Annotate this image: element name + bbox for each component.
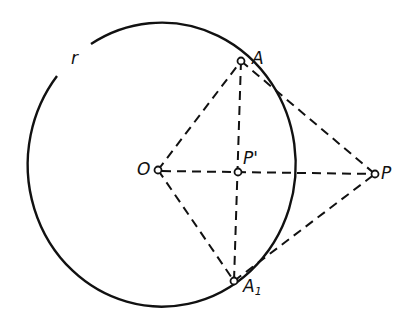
point-P-marker (372, 171, 379, 178)
point-Pprime-marker (235, 169, 242, 176)
label-A1-main: A (243, 276, 255, 296)
label-A: A (252, 50, 264, 67)
geometry-figure (0, 0, 414, 326)
label-O: O (137, 161, 150, 178)
label-A1-subscript: 1 (255, 285, 262, 298)
label-P: P (381, 165, 391, 182)
point-A1-marker (231, 278, 238, 285)
dashed-segments (158, 61, 375, 281)
label-Pprime: P' (243, 150, 258, 167)
label-A1: A1 (243, 278, 262, 297)
point-O-marker (155, 167, 162, 174)
segment-OP (162, 171, 375, 174)
segment-OA (158, 61, 241, 170)
label-r: r (71, 50, 78, 67)
segment-OA1 (158, 170, 234, 281)
point-A-marker (238, 58, 245, 65)
segment-PA (241, 61, 375, 174)
point-markers (155, 58, 379, 285)
